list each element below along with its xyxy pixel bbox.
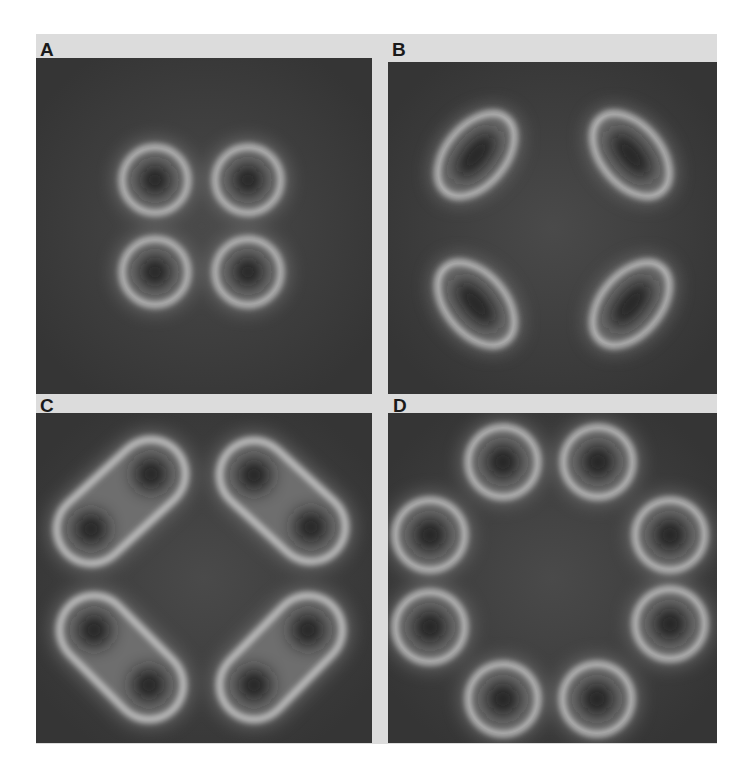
panel-c-image	[36, 413, 372, 743]
panel-b-image	[388, 62, 717, 394]
panel-label-a: A	[40, 40, 54, 59]
panel-label-b: B	[392, 40, 406, 59]
panel-d-image	[388, 413, 717, 743]
panel-a-image	[36, 58, 372, 394]
